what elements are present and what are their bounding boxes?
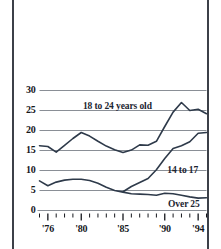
y-tick-label-30: 30 bbox=[18, 85, 36, 95]
x-tick-label-94: '94 bbox=[184, 224, 212, 234]
y-tick-label-15: 15 bbox=[18, 145, 36, 155]
series-label-over-25: Over 25 bbox=[168, 199, 200, 209]
x-tick-label-85: '85 bbox=[109, 224, 137, 234]
x-tick-label-76: '76 bbox=[34, 224, 62, 234]
y-tick-label-0: 0 bbox=[18, 205, 36, 215]
y-tick-label-20: 20 bbox=[18, 125, 36, 135]
x-axis-ticks-group bbox=[40, 214, 207, 221]
series-line-1 bbox=[123, 133, 207, 192]
series-label-18-to-24: 18 to 24 years old bbox=[83, 101, 152, 111]
x-tick-label-80: '80 bbox=[67, 224, 95, 234]
y-tick-label-25: 25 bbox=[18, 105, 36, 115]
y-tick-label-10: 10 bbox=[18, 165, 36, 175]
series-label-14-to-17: 14 to 17 bbox=[167, 165, 198, 175]
line-chart-plot: 051015202530 '76'80'85'90'94 18 to 24 ye… bbox=[0, 0, 221, 249]
series-line-2 bbox=[40, 179, 207, 198]
y-tick-label-5: 5 bbox=[18, 185, 36, 195]
figure: 051015202530 '76'80'85'90'94 18 to 24 ye… bbox=[0, 0, 221, 249]
x-tick-label-90: '90 bbox=[151, 224, 179, 234]
